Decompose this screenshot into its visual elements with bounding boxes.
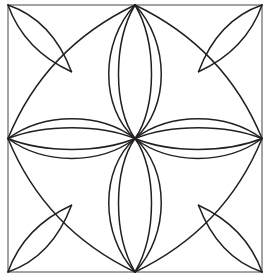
- artwork-canvas: [0, 0, 268, 277]
- quilt-block-pattern-svg: [0, 0, 268, 277]
